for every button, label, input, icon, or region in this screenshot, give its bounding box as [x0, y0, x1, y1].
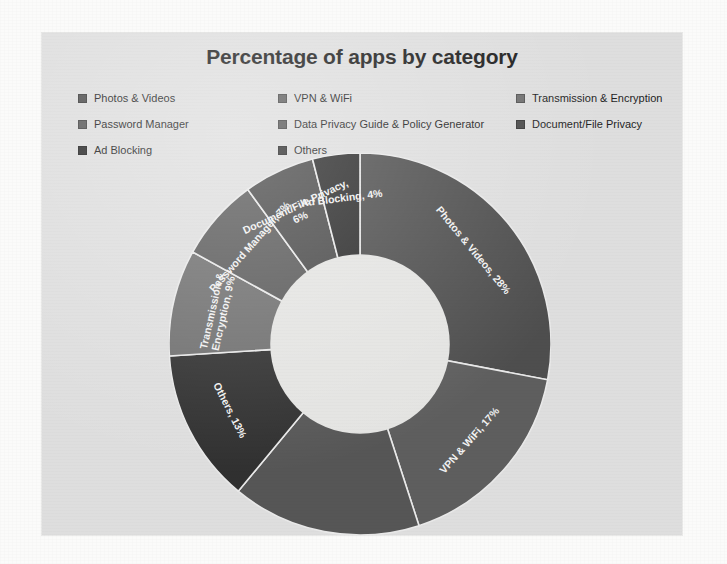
legend-swatch-icon	[78, 146, 87, 155]
legend-swatch-icon	[78, 94, 87, 103]
legend-item-label: Ad Blocking	[94, 145, 152, 156]
legend-item-vpn-wifi[interactable]: VPN & WiFi	[278, 93, 516, 104]
legend-item-photos-videos[interactable]: Photos & Videos	[78, 93, 278, 104]
legend-item-label: Photos & Videos	[94, 93, 175, 104]
donut-center-hole	[270, 254, 450, 434]
chart-slide-panel: Percentage of apps by category Photos & …	[42, 33, 682, 535]
legend-item-label: Password Manager	[94, 119, 189, 130]
legend-swatch-icon	[516, 120, 525, 129]
legend-swatch-icon	[278, 120, 287, 129]
legend-swatch-icon	[78, 120, 87, 129]
donut-chart-svg: Photos & Videos, 28%VPN & WiFi, 17%Other…	[169, 153, 551, 535]
legend-swatch-icon	[278, 94, 287, 103]
legend-item-document-file-privacy[interactable]: Document/File Privacy	[516, 119, 676, 130]
legend-item-label: Transmission & Encryption	[532, 93, 662, 104]
chart-legend: Photos & VideosVPN & WiFiTransmission & …	[78, 85, 658, 163]
donut-chart: Photos & Videos, 28%VPN & WiFi, 17%Other…	[169, 153, 551, 535]
legend-swatch-icon	[516, 94, 525, 103]
legend-item-label: Data Privacy Guide & Policy Generator	[294, 119, 484, 130]
legend-item-data-privacy-guide-policy-generator[interactable]: Data Privacy Guide & Policy Generator	[278, 119, 516, 130]
legend-item-password-manager[interactable]: Password Manager	[78, 119, 278, 130]
legend-item-label: VPN & WiFi	[294, 93, 352, 104]
legend-item-transmission-encryption[interactable]: Transmission & Encryption	[516, 93, 676, 104]
chart-title: Percentage of apps by category	[42, 45, 682, 69]
scanned-page-canvas: Percentage of apps by category Photos & …	[0, 0, 727, 564]
legend-item-label: Document/File Privacy	[532, 119, 642, 130]
